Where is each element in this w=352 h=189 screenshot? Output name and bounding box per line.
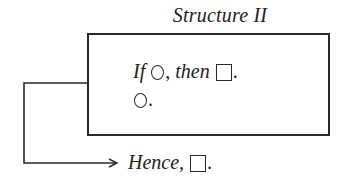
diagram-title: Structure II [150, 4, 290, 26]
premises-box [87, 33, 330, 136]
then-word: then [175, 60, 209, 82]
square-icon [190, 155, 206, 172]
conclusion: Hence, . [128, 151, 212, 173]
circle-icon [134, 93, 147, 108]
period: . [233, 60, 238, 82]
hence-word: Hence, [128, 151, 184, 173]
square-icon [216, 64, 232, 81]
if-word: If [133, 60, 145, 82]
circle-icon [151, 65, 164, 80]
premise-antecedent: . [133, 88, 153, 110]
period: . [148, 88, 153, 110]
comma: , [165, 60, 170, 82]
premise-conditional: If , then . [133, 60, 238, 82]
period: . [207, 151, 212, 173]
